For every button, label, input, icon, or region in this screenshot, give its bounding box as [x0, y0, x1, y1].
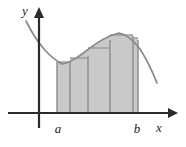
figure-canvas: y x a b — [0, 0, 186, 147]
riemann-sum-figure: y x a b — [0, 0, 186, 147]
y-axis-label: y — [20, 3, 28, 18]
tick-label-a: a — [55, 121, 62, 136]
y-axis-arrow-icon — [34, 7, 44, 18]
area-under-curve — [57, 33, 138, 113]
x-axis-label: x — [155, 120, 162, 135]
shaded-region — [57, 33, 138, 113]
x-axis-arrow-icon — [168, 108, 178, 118]
tick-label-b: b — [134, 121, 141, 136]
